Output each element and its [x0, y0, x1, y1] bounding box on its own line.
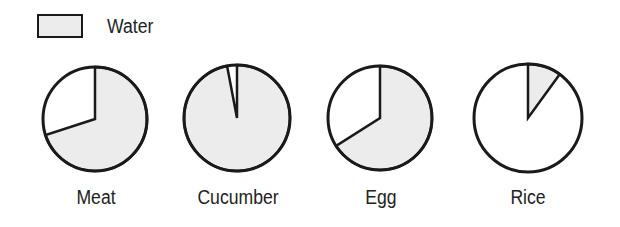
pie-egg: [328, 66, 432, 170]
pie-label-egg: Egg: [365, 186, 396, 209]
pie-rice: [474, 64, 582, 172]
pie-label-meat: Meat: [76, 186, 115, 209]
pie-label-rice: Rice: [510, 186, 545, 209]
pie-meat: [43, 67, 147, 171]
pie-cucumber: [184, 65, 290, 171]
pie-label-cucumber: Cucumber: [197, 186, 278, 209]
